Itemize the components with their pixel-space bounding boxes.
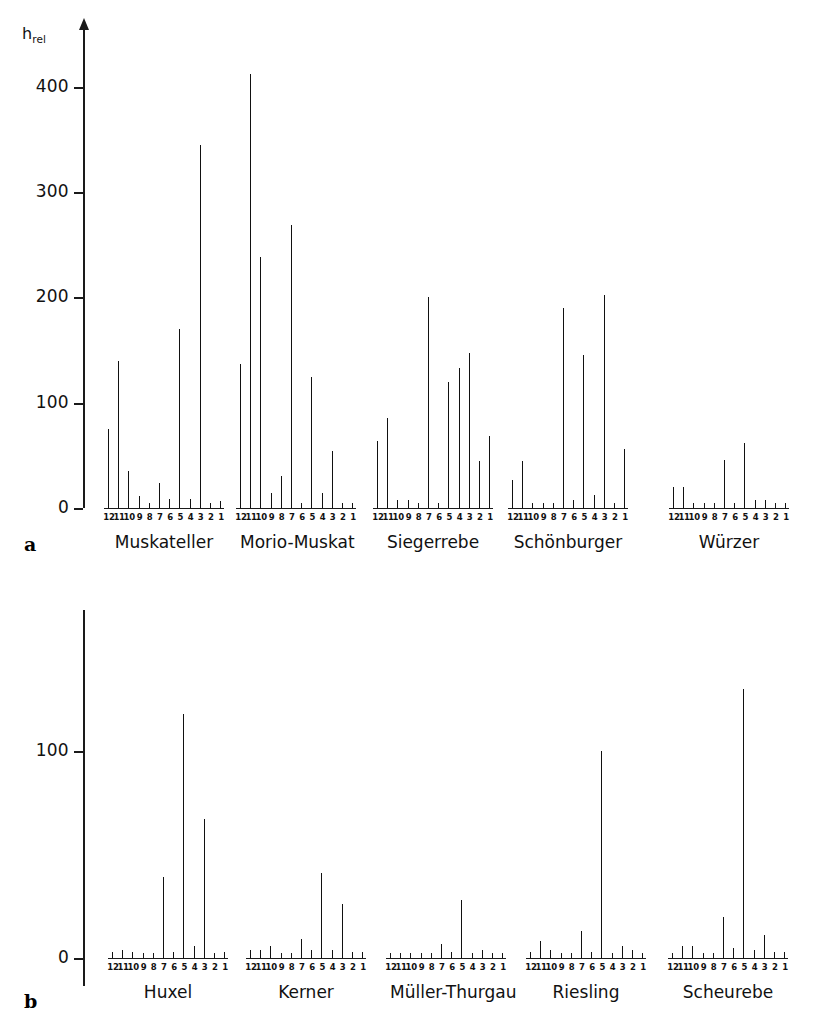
panel-a: a hrel 0100200300400121110987654321Muska…: [0, 0, 829, 570]
x-axis-tick-label: 4: [330, 962, 336, 972]
x-axis-tick-label: 2: [477, 512, 483, 522]
x-axis-tick-label: 3: [480, 962, 486, 972]
bar: [169, 499, 170, 508]
x-axis-tick-label: 7: [289, 512, 295, 522]
bar: [591, 952, 592, 958]
x-axis-tick-label: 4: [753, 512, 759, 522]
bar: [530, 952, 531, 958]
x-axis-tick-label: 4: [752, 962, 758, 972]
x-axis-tick-label: 9: [279, 962, 285, 972]
x-axis-tick-label: 7: [721, 962, 727, 972]
x-axis-tick-label: 8: [147, 512, 153, 522]
x-axis-tick-label: 2: [490, 962, 496, 972]
x-axis-tick-label: 2: [350, 962, 356, 972]
bar: [260, 257, 261, 508]
x-axis-tick-label: 9: [419, 962, 425, 972]
group-baseline: [104, 508, 224, 509]
bar: [482, 950, 483, 958]
bar: [159, 483, 160, 508]
bar: [561, 954, 562, 958]
x-axis-tick-label: 9: [137, 512, 143, 522]
x-axis-tick-label: 3: [602, 512, 608, 522]
y-axis-line: [83, 28, 85, 508]
y-axis-title-main: h: [22, 24, 32, 43]
bar: [672, 956, 673, 958]
x-axis-tick-label: 9: [141, 962, 147, 972]
x-axis-tick-label: 1: [222, 962, 228, 972]
bar: [220, 501, 221, 508]
bar: [673, 487, 674, 508]
x-axis-tick: [390, 953, 391, 958]
x-axis-tick-label: 8: [569, 962, 575, 972]
x-axis-tick-label: 7: [426, 512, 432, 522]
x-axis-tick-label: 3: [763, 512, 769, 522]
bar: [281, 476, 282, 508]
bar: [362, 952, 363, 958]
x-axis-tick-label: 10: [546, 962, 557, 972]
x-axis-tick: [291, 953, 292, 958]
group-baseline: [508, 508, 628, 509]
x-axis-tick-label: 5: [742, 512, 748, 522]
x-axis-tick-label: 10: [689, 512, 700, 522]
bar: [149, 504, 150, 508]
bar: [550, 950, 551, 958]
x-axis-tick-label: 5: [309, 512, 315, 522]
group-baseline: [246, 958, 366, 959]
x-axis-tick: [410, 953, 411, 958]
x-axis-tick-label: 3: [198, 512, 204, 522]
x-axis-tick: [400, 953, 401, 958]
bar: [190, 499, 191, 508]
panel-a-letter: a: [24, 533, 36, 555]
x-axis-tick-label: 7: [157, 512, 163, 522]
group-baseline: [108, 958, 228, 959]
x-axis-tick-label: 7: [579, 962, 585, 972]
x-axis-tick-label: 2: [772, 962, 778, 972]
x-axis-tick-label: 2: [630, 962, 636, 972]
x-axis-tick: [431, 953, 432, 958]
bar: [438, 503, 439, 508]
bar: [755, 500, 756, 508]
x-axis-tick-label: 5: [459, 962, 465, 972]
bar: [573, 500, 574, 508]
bar: [724, 460, 725, 508]
x-axis-tick-label: 10: [128, 962, 139, 972]
y-axis-tick-label: 0: [11, 947, 69, 967]
x-axis-tick-label: 5: [319, 962, 325, 972]
bar: [754, 950, 755, 958]
x-axis-tick-label: 4: [192, 962, 198, 972]
y-axis-arrowhead: [79, 18, 89, 30]
bar: [543, 504, 544, 508]
bar: [240, 364, 241, 508]
bar: [604, 295, 605, 508]
x-axis-tick-label: 9: [541, 512, 547, 522]
bar: [311, 950, 312, 958]
group-name-label: Huxel: [112, 982, 224, 1002]
bar: [418, 505, 419, 508]
x-axis-tick-label: 4: [592, 512, 598, 522]
bar: [512, 480, 513, 508]
x-axis-tick-label: 7: [161, 962, 167, 972]
x-axis-tick-label: 1: [218, 512, 224, 522]
x-axis-tick: [472, 953, 473, 958]
x-axis-tick-label: 6: [731, 962, 737, 972]
x-axis-tick-label: 1: [360, 962, 366, 972]
x-axis-tick: [421, 953, 422, 958]
bar: [692, 946, 693, 958]
x-axis-tick-label: 1: [500, 962, 506, 972]
bar: [594, 495, 595, 508]
group-baseline: [373, 508, 493, 509]
y-axis-title-sub: rel: [32, 33, 46, 45]
bar: [540, 941, 541, 958]
group-baseline: [526, 958, 646, 959]
bar: [311, 377, 312, 508]
bar: [744, 443, 745, 508]
bar: [352, 952, 353, 958]
bar: [428, 297, 429, 508]
bar: [469, 353, 470, 508]
group-baseline: [236, 508, 356, 509]
bar: [321, 873, 322, 958]
bar: [459, 368, 460, 508]
bar: [489, 436, 490, 508]
bar: [112, 952, 113, 958]
y-axis-tick: [74, 297, 83, 299]
